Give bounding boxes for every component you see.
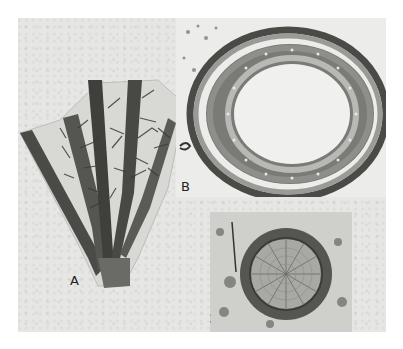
panel-b: B bbox=[176, 18, 386, 197]
panel-c-image bbox=[210, 212, 352, 332]
panel-b-image bbox=[176, 18, 386, 197]
figure-plate: A bbox=[18, 18, 386, 332]
panel-c: C bbox=[210, 212, 352, 332]
panel-c-label: C bbox=[210, 312, 211, 325]
panel-b-label: B bbox=[181, 180, 190, 193]
panel-a-label: A bbox=[70, 274, 79, 287]
